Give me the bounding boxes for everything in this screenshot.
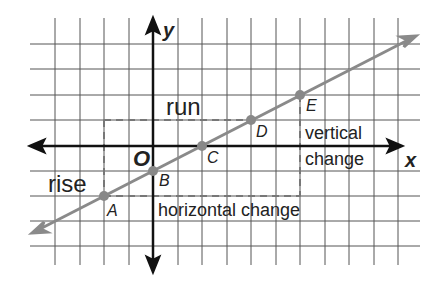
point-label-C: C: [207, 150, 219, 166]
point-E: [295, 90, 305, 100]
point-label-D: D: [256, 124, 268, 140]
point-label-B: B: [159, 173, 170, 189]
point-D: [246, 115, 256, 125]
origin-label: O: [133, 148, 150, 170]
vertical-change-label-line2: change: [305, 150, 364, 168]
y-axis-up-arrow-icon: [147, 18, 159, 33]
point-label-A: A: [107, 203, 118, 219]
point-C: [197, 141, 207, 151]
run-label: run: [166, 95, 201, 119]
x-axis-right-arrow-icon: [388, 140, 402, 152]
horizontal-change-label: horizontal change: [158, 201, 300, 219]
axes: [30, 18, 402, 272]
coordinate-plane: [0, 0, 447, 293]
x-axis-left-arrow-icon: [30, 140, 44, 152]
rise-label: rise: [48, 172, 87, 196]
y-axis-label: y: [163, 20, 174, 40]
vertical-change-label-line1: vertical: [305, 124, 362, 142]
y-axis-down-arrow-icon: [147, 257, 159, 272]
point-label-E: E: [306, 98, 317, 114]
x-axis-label: x: [405, 150, 416, 170]
slope-diagram: y x O A B C D E run rise vertical change…: [0, 0, 447, 293]
point-A: [99, 191, 109, 201]
